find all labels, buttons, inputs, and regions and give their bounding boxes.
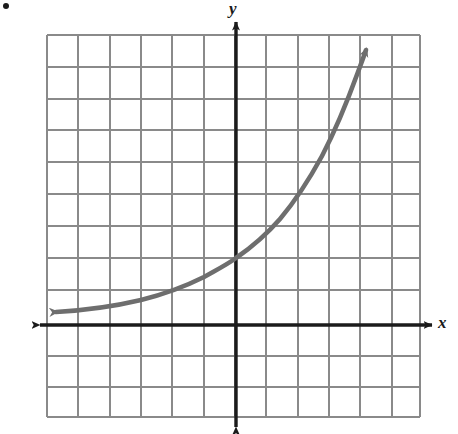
coordinate-plane — [0, 0, 458, 434]
y-axis-label: y — [229, 0, 237, 17]
grid-lines — [47, 35, 420, 417]
graph-figure: x y — [0, 0, 458, 434]
exponential-curve — [56, 50, 366, 312]
x-axis-label: x — [438, 314, 447, 331]
